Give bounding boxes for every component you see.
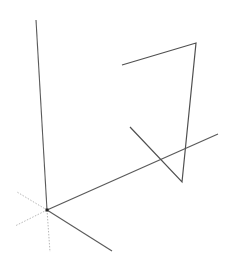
drawing-canvas[interactable] <box>0 0 232 253</box>
negative-axes-dotted <box>15 192 50 252</box>
positive-axes <box>36 20 218 251</box>
origin-marker-icon <box>46 209 49 212</box>
blue-axis-positive <box>36 20 47 210</box>
3d-modeling-viewport[interactable] <box>0 0 232 253</box>
red-axis-positive <box>47 134 218 210</box>
red-axis-negative <box>15 210 47 226</box>
drawn-edges-polyline[interactable] <box>122 43 196 182</box>
green-axis-positive <box>47 210 112 251</box>
blue-axis-negative <box>47 210 50 252</box>
green-axis-negative <box>17 192 47 210</box>
